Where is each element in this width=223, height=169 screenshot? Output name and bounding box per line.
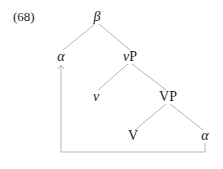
edge-VP-V — [135, 104, 166, 130]
node-beta: β — [94, 10, 101, 24]
edge-beta-alpha — [63, 24, 95, 50]
tree-lines — [0, 0, 223, 169]
edge-vP-v — [98, 64, 128, 90]
node-vP-P: P — [129, 49, 137, 64]
node-v: v — [93, 90, 99, 104]
edge-vP-VP — [132, 64, 166, 90]
edge-beta-vP — [99, 24, 130, 50]
node-VP: VP — [159, 90, 177, 104]
node-V: V — [128, 129, 138, 143]
node-alpha-moved: α — [57, 50, 64, 64]
node-alpha-base: α — [201, 129, 208, 143]
edge-VP-alpha — [170, 104, 203, 130]
example-number: (68) — [13, 10, 35, 23]
node-vP: vP — [123, 50, 137, 64]
